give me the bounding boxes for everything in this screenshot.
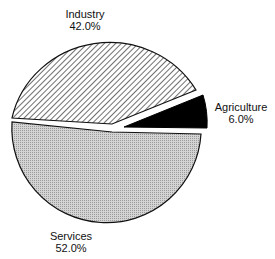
- label-industry-value: 42.0%: [50, 20, 120, 32]
- label-agriculture-name: Agriculture: [206, 101, 275, 113]
- slice-services: [12, 122, 201, 223]
- label-services-name: Services: [45, 230, 97, 242]
- pie-chart: [0, 0, 275, 259]
- label-services-value: 52.0%: [45, 242, 97, 254]
- label-industry: Industry 42.0%: [50, 8, 120, 32]
- label-agriculture-value: 6.0%: [206, 113, 275, 125]
- label-industry-name: Industry: [50, 8, 120, 20]
- label-agriculture: Agriculture 6.0%: [206, 101, 275, 125]
- label-services: Services 52.0%: [45, 230, 97, 254]
